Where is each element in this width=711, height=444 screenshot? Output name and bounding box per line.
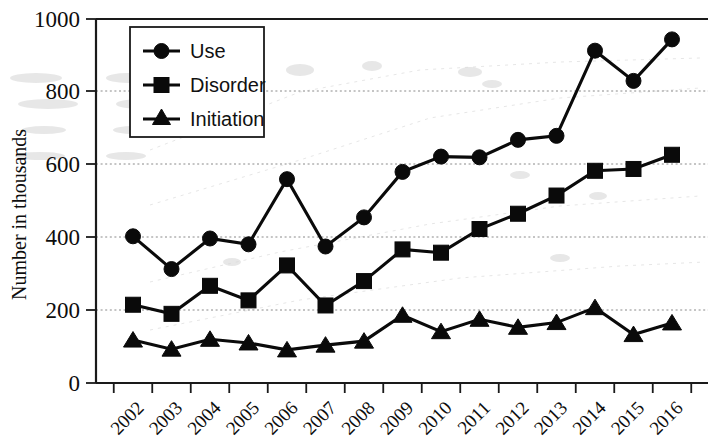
y-tick-label: 600 — [46, 152, 81, 177]
x-tick-label: 2004 — [183, 397, 225, 439]
x-tick-label: 2009 — [376, 397, 418, 439]
circle-marker — [472, 150, 487, 165]
circle-marker — [203, 231, 218, 246]
x-tick-label: 2006 — [260, 397, 302, 439]
x-tick-label: 2012 — [491, 397, 533, 439]
square-marker — [665, 147, 680, 162]
legend-label-use: Use — [190, 40, 226, 62]
circle-marker — [626, 73, 641, 88]
x-axis-ticks — [114, 383, 692, 393]
square-marker — [154, 78, 169, 93]
triangle-marker — [470, 311, 489, 327]
triangle-marker — [586, 299, 605, 315]
square-marker — [164, 306, 179, 321]
circle-marker — [126, 229, 141, 244]
triangle-marker — [547, 314, 566, 330]
square-marker — [280, 258, 295, 273]
x-tick-label: 2007 — [299, 397, 341, 439]
circle-marker — [164, 262, 179, 277]
x-axis-labels: 2002200320042005200620072008200920102011… — [106, 397, 687, 439]
square-marker — [126, 297, 141, 312]
x-tick-label: 2003 — [145, 397, 187, 439]
square-marker — [395, 242, 410, 257]
circle-marker — [280, 172, 295, 187]
y-tick-label: 1000 — [34, 7, 80, 32]
y-tick-label: 800 — [46, 79, 81, 104]
legend-label-initiation: Initiation — [190, 108, 265, 130]
circle-marker — [241, 237, 256, 252]
x-tick-label: 2015 — [607, 397, 649, 439]
triangle-marker — [393, 307, 412, 323]
square-marker — [588, 163, 603, 178]
legend-entry-disorder: Disorder — [143, 74, 266, 96]
square-marker — [549, 188, 564, 203]
circle-marker — [549, 128, 564, 143]
scan-artifacts — [10, 58, 705, 330]
x-tick-label: 2010 — [414, 397, 456, 439]
square-marker — [318, 298, 333, 313]
square-marker — [472, 222, 487, 237]
circle-marker — [434, 149, 449, 164]
y-tick-label: 200 — [46, 298, 81, 323]
x-tick-label: 2002 — [106, 397, 148, 439]
circle-marker — [357, 210, 372, 225]
triangle-marker — [124, 332, 143, 348]
square-marker — [203, 278, 218, 293]
y-tick-label: 400 — [46, 225, 81, 250]
y-axis-labels: 1000 800 600 400 200 0 — [34, 7, 80, 396]
x-tick-label: 2013 — [530, 397, 572, 439]
chart-canvas: 1000 800 600 400 200 0 Number in thousan… — [0, 0, 711, 444]
square-marker — [511, 206, 526, 221]
x-tick-label: 2005 — [222, 397, 264, 439]
circle-marker — [318, 239, 333, 254]
series-initiation — [124, 299, 682, 357]
chart-legend: Use Disorder Initiation — [130, 27, 266, 137]
square-marker — [434, 245, 449, 260]
circle-marker — [665, 32, 680, 47]
x-tick-label: 2008 — [337, 397, 379, 439]
x-tick-label: 2014 — [568, 397, 610, 439]
circle-marker — [511, 132, 526, 147]
y-axis-title: Number in thousands — [8, 129, 30, 300]
x-tick-label: 2011 — [453, 397, 494, 438]
circle-marker — [154, 44, 169, 59]
circle-marker — [395, 164, 410, 179]
y-tick-label: 0 — [69, 371, 81, 396]
square-marker — [357, 274, 372, 289]
triangle-marker — [663, 314, 682, 330]
line-chart: 1000 800 600 400 200 0 Number in thousan… — [0, 0, 711, 444]
y-axis-ticks — [86, 19, 96, 383]
circle-marker — [588, 43, 603, 58]
x-tick-label: 2016 — [645, 397, 687, 439]
legend-label-disorder: Disorder — [190, 74, 266, 96]
square-marker — [626, 161, 641, 176]
square-marker — [241, 293, 256, 308]
